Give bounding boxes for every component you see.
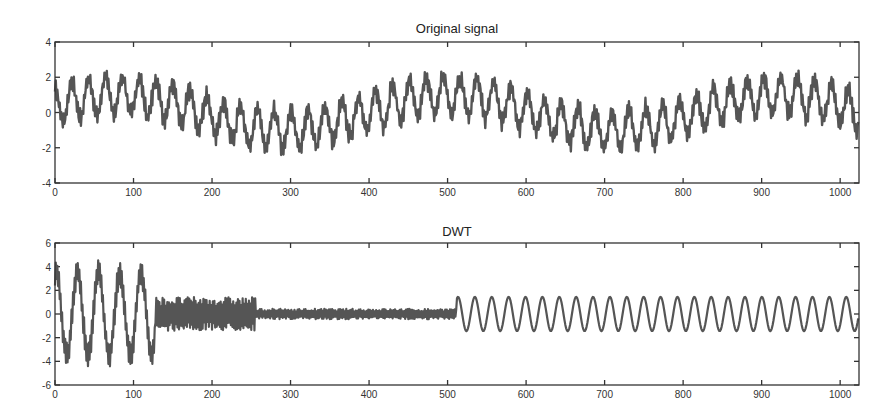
svg-text:600: 600 (518, 389, 535, 400)
svg-text:400: 400 (361, 389, 378, 400)
plot-title: Original signal (416, 21, 498, 36)
svg-text:600: 600 (518, 187, 535, 198)
svg-text:300: 300 (282, 389, 299, 400)
svg-text:1000: 1000 (829, 389, 852, 400)
svg-text:6: 6 (45, 238, 51, 249)
dwt-plot: DWT 01002003004005006007008009001000-6-4… (42, 224, 859, 400)
svg-text:2: 2 (45, 72, 51, 83)
svg-text:100: 100 (125, 389, 142, 400)
svg-text:700: 700 (596, 187, 613, 198)
svg-text:200: 200 (204, 389, 221, 400)
svg-text:-4: -4 (42, 178, 51, 189)
svg-text:900: 900 (753, 187, 770, 198)
svg-text:100: 100 (125, 187, 142, 198)
svg-text:4: 4 (45, 37, 51, 48)
svg-text:-6: -6 (42, 380, 51, 391)
svg-text:1000: 1000 (829, 187, 852, 198)
svg-text:200: 200 (204, 187, 221, 198)
signal-trace (55, 71, 858, 155)
svg-text:-2: -2 (42, 333, 51, 344)
svg-text:800: 800 (675, 389, 692, 400)
figure: Original signal 010020030040050060070080… (0, 0, 894, 417)
svg-text:-4: -4 (42, 356, 51, 367)
svg-text:0: 0 (45, 108, 51, 119)
svg-text:500: 500 (439, 187, 456, 198)
svg-text:400: 400 (361, 187, 378, 198)
svg-text:2: 2 (45, 285, 51, 296)
svg-text:500: 500 (439, 389, 456, 400)
plot-title: DWT (442, 224, 472, 239)
original-signal-plot: Original signal 010020030040050060070080… (42, 21, 859, 198)
svg-text:800: 800 (675, 187, 692, 198)
svg-text:4: 4 (45, 262, 51, 273)
svg-text:900: 900 (753, 389, 770, 400)
svg-text:700: 700 (596, 389, 613, 400)
dwt-trace (55, 260, 858, 366)
svg-text:300: 300 (282, 187, 299, 198)
svg-text:0: 0 (52, 389, 58, 400)
svg-text:0: 0 (52, 187, 58, 198)
svg-text:-2: -2 (42, 143, 51, 154)
svg-text:0: 0 (45, 309, 51, 320)
